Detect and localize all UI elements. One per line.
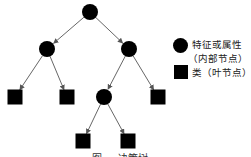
internal-node-n1 (39, 41, 55, 57)
edge-n2-n3 (108, 56, 125, 89)
edge-n1-l1 (20, 56, 43, 90)
edge-n3-l5 (108, 104, 124, 133)
internal-node-legend-sublabel: （内部节点） (188, 51, 248, 65)
leaf-node-l3 (151, 90, 166, 105)
figure-caption: 图 … 决策树 (92, 150, 148, 157)
edge-n1-l2 (50, 56, 64, 89)
internal-node-n2 (121, 41, 137, 57)
leaf-node-l1 (8, 90, 23, 105)
edge-root-n1 (54, 17, 84, 43)
internal-node-legend-icon (173, 38, 188, 53)
leaf-node-legend-label: 类（叶节点） (192, 65, 251, 79)
internal-node-root (82, 4, 98, 20)
edge-root-n2 (96, 18, 123, 43)
leaf-node-l2 (60, 90, 75, 105)
leaf-node-l5 (121, 134, 136, 149)
leaf-node-l4 (76, 134, 91, 149)
internal-node-legend-label: 特征或属性 (192, 37, 242, 51)
edge-n3-l4 (87, 104, 101, 133)
internal-node-n3 (96, 89, 112, 105)
edge-n2-l3 (133, 56, 153, 90)
leaf-node-legend-icon (174, 65, 188, 79)
